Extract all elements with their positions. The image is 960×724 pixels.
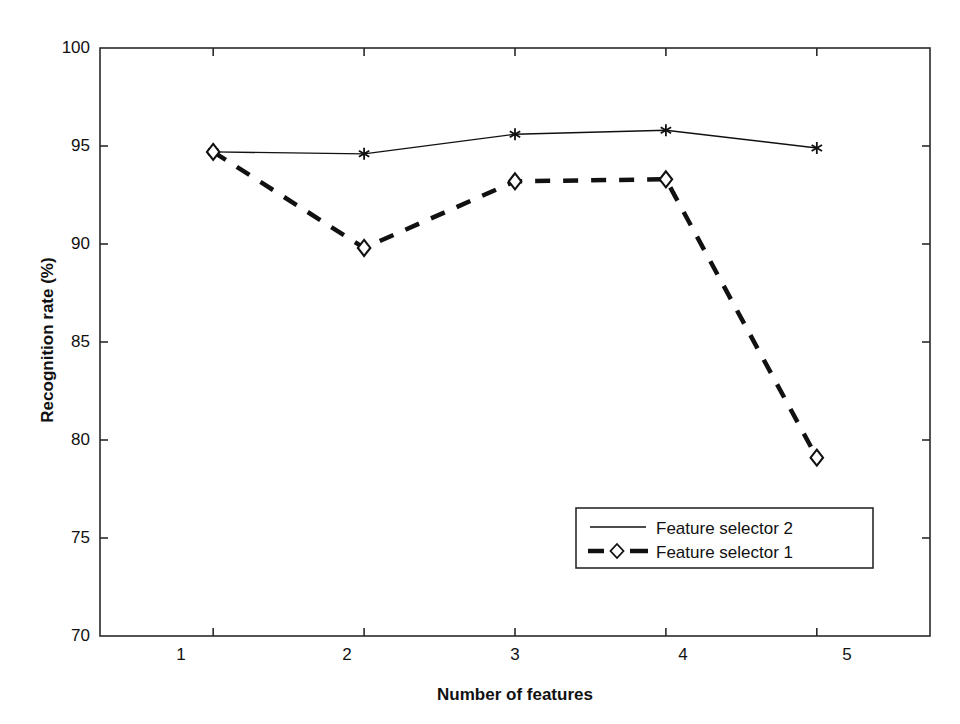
- legend[interactable]: Feature selector 2 Feature selector 1: [576, 508, 873, 568]
- series-line-2: [213, 152, 817, 458]
- marker-diamond: [811, 450, 823, 466]
- series-1: [208, 124, 822, 160]
- legend-label-feature-selector-2: Feature selector 2: [656, 519, 793, 538]
- marker-diamond: [207, 144, 219, 160]
- marker-diamond: [660, 171, 672, 187]
- series-2: [207, 144, 823, 466]
- marker-diamond: [509, 173, 521, 189]
- plot-area: Feature selector 2 Feature selector 1: [0, 0, 960, 724]
- data-series-layer: [207, 124, 823, 465]
- marker-diamond: [358, 240, 370, 256]
- legend-label-feature-selector-1: Feature selector 1: [656, 543, 793, 562]
- chart-figure: Recognition rate (%) Number of features …: [0, 0, 960, 724]
